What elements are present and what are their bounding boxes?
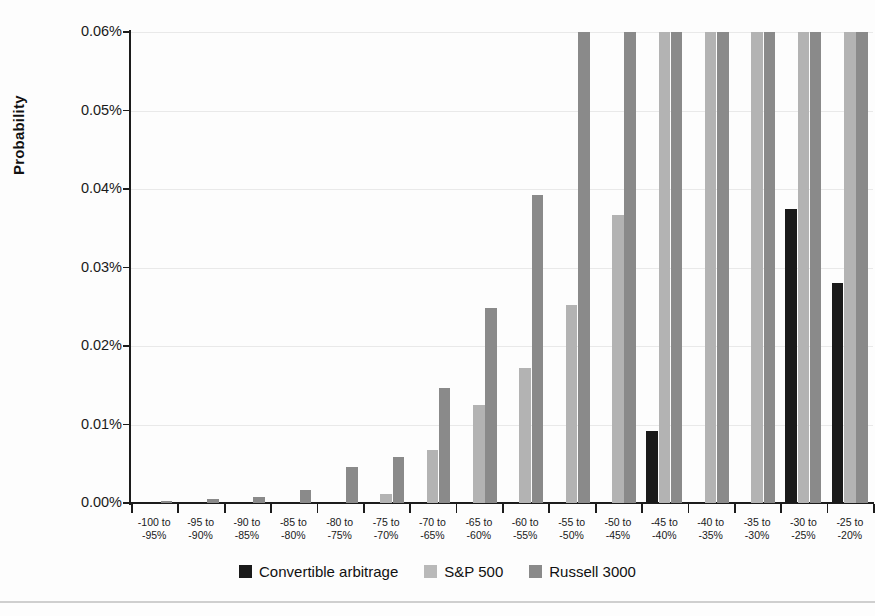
bar-sp-12 — [705, 32, 717, 503]
legend-swatch-icon — [239, 565, 252, 578]
bar-rus-8 — [532, 195, 544, 504]
legend-item[interactable]: Russell 3000 — [529, 563, 636, 580]
y-axis-title: Probability — [10, 0, 27, 175]
legend-item[interactable]: S&P 500 — [424, 563, 503, 580]
legend-swatch-icon — [529, 565, 542, 578]
chart-figure: Probability 0.00%0.01%0.02%0.03%0.04%0.0… — [0, 0, 875, 616]
bar-rus-4 — [346, 467, 358, 503]
bar-sp-7 — [473, 405, 485, 503]
bar-rus-6 — [439, 388, 451, 503]
y-axis-tick-label: 0.02% — [56, 337, 122, 353]
x-axis-tick — [548, 504, 550, 513]
x-axis-tick — [688, 504, 690, 513]
bar-rus-3 — [300, 490, 312, 503]
bar-rus-0 — [161, 501, 173, 503]
bar-sp-14 — [798, 32, 810, 503]
x-axis-category-line: -25 to — [819, 516, 875, 529]
bar-rus-12 — [717, 32, 729, 503]
x-axis-tick — [641, 504, 643, 513]
bar-sp-13 — [751, 32, 763, 503]
bar-sp-11 — [659, 32, 671, 503]
bar-sp-10 — [612, 215, 624, 503]
x-axis-tick — [827, 504, 829, 513]
x-axis-tick — [780, 504, 782, 513]
x-axis-category-label: -25 to-20% — [819, 516, 875, 541]
legend-swatch-icon — [424, 565, 437, 578]
bar-rus-2 — [253, 497, 265, 503]
y-axis-tick-label: 0.01% — [56, 416, 122, 432]
x-axis-tick — [409, 504, 411, 513]
legend-label: Convertible arbitrage — [259, 563, 398, 580]
x-axis-tick — [270, 504, 272, 513]
bar-conv-11 — [646, 431, 658, 503]
bar-rus-7 — [485, 308, 497, 503]
x-axis-tick — [595, 504, 597, 513]
bar-series-container — [131, 32, 873, 503]
bar-rus-13 — [764, 32, 776, 503]
x-axis-tick — [317, 504, 319, 513]
bar-sp-9 — [566, 305, 578, 503]
x-axis-category-line: -20% — [819, 529, 875, 542]
bar-rus-5 — [393, 457, 405, 503]
legend-label: S&P 500 — [444, 563, 503, 580]
y-axis-tick-label: 0.06% — [56, 23, 122, 39]
bottom-divider — [0, 601, 875, 603]
x-axis-tick — [224, 504, 226, 513]
bar-rus-10 — [624, 32, 636, 503]
legend-label: Russell 3000 — [549, 563, 636, 580]
bar-conv-15 — [832, 283, 844, 503]
legend-item[interactable]: Convertible arbitrage — [239, 563, 398, 580]
x-axis-tick — [734, 504, 736, 513]
x-axis-tick — [177, 504, 179, 513]
bar-sp-6 — [427, 450, 439, 503]
y-axis-tick-label: 0.04% — [56, 180, 122, 196]
bar-rus-1 — [207, 499, 219, 503]
bar-rus-15 — [856, 32, 868, 503]
x-axis-tick — [456, 504, 458, 513]
y-axis-tick-label: 0.05% — [56, 102, 122, 118]
bar-sp-5 — [380, 494, 392, 503]
x-axis-tick — [363, 504, 365, 513]
x-axis-tick — [502, 504, 504, 513]
bar-rus-9 — [578, 32, 590, 503]
chart-legend: Convertible arbitrageS&P 500Russell 3000 — [0, 563, 875, 580]
bar-conv-14 — [785, 209, 797, 503]
y-axis-title-text: Probability — [10, 95, 27, 175]
bar-rus-11 — [671, 32, 683, 503]
bar-rus-14 — [810, 32, 822, 503]
x-axis-tick — [131, 504, 133, 513]
y-axis-tick-label: 0.00% — [56, 494, 122, 510]
y-axis-tick-label: 0.03% — [56, 259, 122, 275]
bar-sp-15 — [844, 32, 856, 503]
bar-sp-8 — [519, 368, 531, 503]
